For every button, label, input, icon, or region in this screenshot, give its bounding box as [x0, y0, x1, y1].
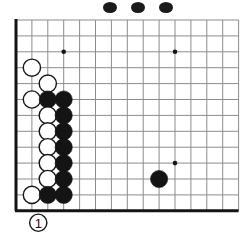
black-stone[interactable] [55, 139, 72, 156]
stone-disc [39, 155, 56, 172]
white-stone[interactable] [23, 91, 40, 108]
white-stone[interactable] [39, 139, 56, 156]
cropped-glyph [103, 2, 117, 13]
black-stone[interactable] [55, 186, 72, 203]
white-stone[interactable] [39, 170, 56, 187]
star-point [173, 161, 178, 166]
star-point [61, 50, 66, 55]
stone-disc [39, 186, 56, 203]
stone-disc [55, 91, 72, 108]
stone-disc [39, 75, 56, 92]
stone-disc [39, 139, 56, 156]
stone-disc [55, 107, 72, 124]
stone-disc [55, 139, 72, 156]
go-board-canvas[interactable]: 1 [0, 0, 245, 244]
white-stone[interactable] [23, 59, 40, 76]
white-stone[interactable] [39, 75, 56, 92]
white-stone[interactable] [39, 107, 56, 124]
stone-disc [39, 170, 56, 187]
black-stone[interactable] [39, 186, 56, 203]
white-stone[interactable] [23, 186, 40, 203]
stone-disc [55, 155, 72, 172]
black-stone[interactable] [55, 155, 72, 172]
black-stone[interactable] [55, 91, 72, 108]
stone-disc [151, 170, 168, 187]
cropped-glyph-row [0, 0, 245, 14]
black-stone[interactable] [55, 107, 72, 124]
white-stone[interactable] [39, 123, 56, 140]
star-point [173, 50, 178, 55]
stone-disc [23, 91, 40, 108]
black-stone[interactable] [151, 170, 168, 187]
black-stone[interactable] [55, 170, 72, 187]
stone-disc [55, 186, 72, 203]
white-stone[interactable] [39, 155, 56, 172]
stone-disc [39, 123, 56, 140]
white-stone[interactable]: 1 [30, 214, 47, 231]
stone-disc [39, 107, 56, 124]
board-background [0, 0, 245, 244]
black-stone[interactable] [39, 91, 56, 108]
go-board-diagram: 1 [0, 0, 245, 244]
stone-disc [39, 91, 56, 108]
cropped-glyph [159, 2, 173, 13]
stone-disc [55, 123, 72, 140]
stone-disc [55, 170, 72, 187]
black-stone[interactable] [55, 123, 72, 140]
stone-disc [23, 59, 40, 76]
stone-move-number: 1 [35, 216, 42, 231]
stone-disc [23, 186, 40, 203]
cropped-glyph [131, 2, 145, 13]
